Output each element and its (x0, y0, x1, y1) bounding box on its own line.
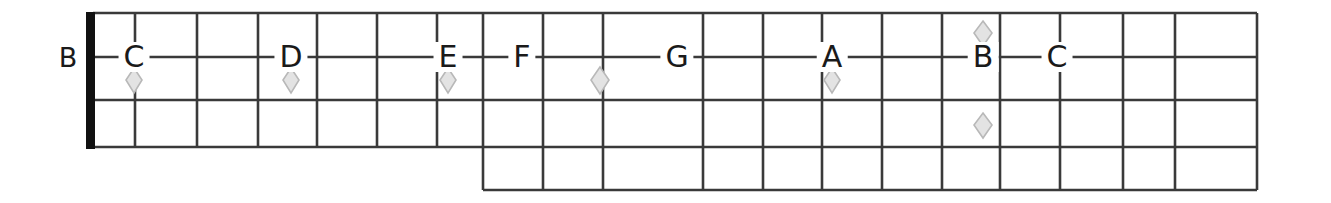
note-label-e-7th-fret: E (434, 42, 463, 72)
note-label-c-15th-fret: C (1042, 42, 1073, 72)
note-label-d-5th-fret: D (274, 42, 307, 72)
note-label-b-14th-fret: B (968, 42, 999, 72)
inlay-markers (126, 21, 992, 138)
note-label-g-10th-fret: G (660, 42, 693, 72)
note-label-f-8th-fret: F (508, 42, 535, 72)
marker-unlabeled-9th-fret (591, 67, 609, 94)
open-string-label-b: B (59, 44, 78, 71)
fretboard-grid (0, 0, 1331, 203)
nut (86, 12, 95, 149)
marker-b-lower (974, 113, 992, 138)
note-label-a-12th-fret: A (817, 42, 848, 72)
fretboard-diagram: B C D E F G A B C (0, 0, 1331, 203)
fret-lines-lower (483, 13, 1257, 190)
note-label-c-3rd-fret: C (119, 42, 150, 72)
